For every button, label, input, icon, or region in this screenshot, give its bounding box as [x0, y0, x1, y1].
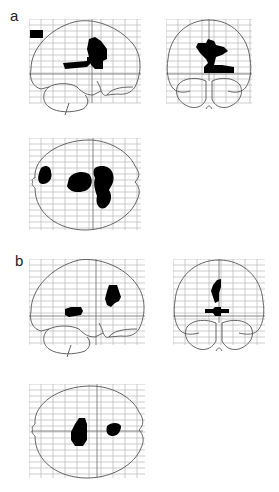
panel-b-axial-view: [29, 384, 147, 484]
panel-label-a: a: [10, 8, 18, 23]
panel-a-sagittal-view: [29, 19, 141, 115]
panel-label-b: b: [15, 253, 23, 268]
panel-a-coronal-view: [166, 19, 254, 115]
panel-b-coronal-view: [173, 259, 267, 359]
panel-a-axial-view: [29, 138, 141, 234]
panel-b-sagittal-view: [29, 259, 147, 359]
